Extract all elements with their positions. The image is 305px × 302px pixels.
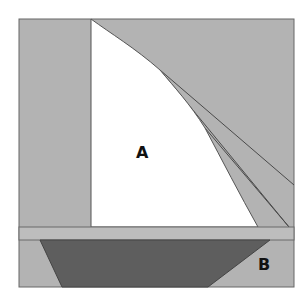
label-a: A (136, 143, 149, 162)
sailboat-diagram: A B (0, 0, 305, 302)
label-b: B (258, 255, 270, 274)
deck-band (19, 227, 294, 240)
